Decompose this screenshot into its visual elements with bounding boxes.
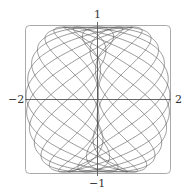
x-tick-label-left: −2 xyxy=(8,94,24,105)
y-tick-label-bottom: −1 xyxy=(89,178,105,189)
x-tick-label-right: 2 xyxy=(175,94,182,105)
y-tick-label-top: 1 xyxy=(94,9,101,20)
lissajous-plot xyxy=(0,0,191,193)
